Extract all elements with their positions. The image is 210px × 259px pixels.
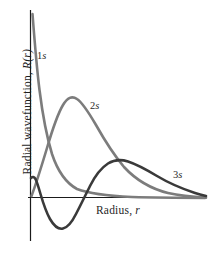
curve-label-3s-orbital: s bbox=[178, 169, 182, 180]
y-axis-label: Radial wavefunction, R(r) bbox=[22, 24, 34, 200]
x-axis-label-variable: r bbox=[135, 204, 140, 216]
x-axis-label-text: Radius, bbox=[96, 204, 135, 216]
y-axis-label-text: Radial wavefunction, bbox=[21, 69, 33, 174]
curve-2s bbox=[32, 97, 207, 197]
curve-label-1s: 1s bbox=[37, 51, 46, 62]
curve-label-2s-orbital: s bbox=[95, 100, 99, 111]
radial-wavefunction-figure: 1s 2s 3s Radius, r Radial wavefunction, … bbox=[0, 0, 210, 259]
curve-label-1s-orbital: s bbox=[42, 50, 46, 61]
curve-label-2s: 2s bbox=[90, 101, 99, 112]
y-axis-label-variable: R(r) bbox=[21, 49, 33, 69]
x-axis-label: Radius, r bbox=[96, 205, 140, 217]
curve-label-3s: 3s bbox=[173, 170, 182, 181]
